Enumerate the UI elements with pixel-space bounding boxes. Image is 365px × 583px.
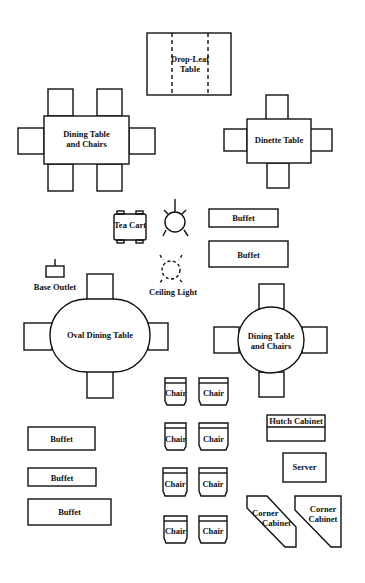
hutch-cabinet-label: Hutch Cabinet [267,416,325,426]
chair-label[interactable]: Chair [199,479,227,489]
buffet-large-top-label: Buffet [209,250,288,260]
dinette-label: Dinette Table [247,135,311,145]
base-outlet-label: Base Outlet [30,282,80,292]
chair-label[interactable]: Chair [165,388,186,398]
buffet-left-1-label: Buffet [28,434,95,444]
buffet-small-top-label: Buffet [209,213,278,223]
chair-shapes [163,378,228,543]
buffet-left-3-label: Buffet [28,507,111,517]
dining-rect-label-line1: Dining Table [44,129,129,139]
buffet-left-2-label: Buffet [28,473,96,483]
corner-cabinet-1-label: Corner Cabinet [252,508,302,528]
chair-label[interactable]: Chair [199,388,228,398]
dining-rect-label-line2: and Chairs [44,139,129,149]
ceiling-light-label: Ceiling Light [145,287,201,297]
corner-cabinet-1-label-line1: Corner [252,508,302,518]
chair-label[interactable]: Chair [199,434,228,444]
chair-label[interactable]: Chair [164,526,187,536]
round-table-label-line2: and Chairs [238,341,304,351]
chair-label[interactable]: Chair [199,526,227,536]
round-table-label-line1: Dining Table [238,331,304,341]
drop-leaf-label: Drop-Leaf Table [171,54,209,74]
chair-label[interactable]: Chair [163,479,187,489]
chair-label[interactable]: Chair [165,434,186,444]
tea-cart-label: Tea Cart [112,220,148,230]
round-table-label: Dining Table and Chairs [238,331,304,351]
ceiling-light-dashed-icon [159,255,184,284]
corner-cabinet-1-label-line2: Cabinet [252,518,302,528]
corner-cabinet-2-label: Corner Cabinet [305,504,341,524]
corner-cabinet-2-label-line2: Cabinet [305,514,341,524]
dining-rect-label: Dining Table and Chairs [44,129,129,149]
base-outlet-icon [46,259,64,277]
corner-cabinet-2-label-line1: Corner [305,504,341,514]
oval-table-label: Oval Dining Table [50,330,150,340]
drop-leaf-label-line2: Table [171,64,209,74]
drop-leaf-label-line1: Drop-Leaf [171,54,209,64]
ceiling-light-fixture-icon [163,199,188,236]
server-label: Server [283,462,326,472]
